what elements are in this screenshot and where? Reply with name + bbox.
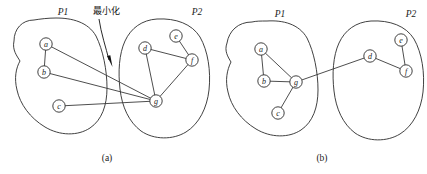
panel-b-node-d[interactable]: d	[364, 50, 376, 62]
panel-b-partition-P1-label: P1	[274, 9, 286, 19]
panel-b-edges	[261, 40, 406, 113]
panel-b-node-a[interactable]: a	[255, 43, 267, 55]
panel-a-node-a[interactable]: a	[40, 38, 52, 50]
node-label: c	[276, 109, 280, 118]
panel-a-partition-P1-label: P1	[57, 7, 69, 17]
annotation-arrow-line	[99, 19, 109, 60]
panel-b-caption: (b)	[316, 153, 327, 164]
partition-figure: P1 P2 a b c d	[0, 0, 427, 174]
annotation-arrow-head-icon	[107, 55, 113, 67]
node-label: g	[294, 78, 298, 87]
node-label: a	[259, 45, 263, 54]
panel-b-node-g[interactable]: g	[290, 76, 302, 88]
panel-b-node-c[interactable]: c	[272, 107, 284, 119]
panel-a-node-d[interactable]: d	[139, 42, 151, 54]
panel-b: P1 P2 a b c g d	[226, 9, 424, 164]
node-label: a	[44, 40, 48, 49]
node-label: b	[262, 77, 266, 86]
panel-a-node-g[interactable]: g	[150, 95, 162, 107]
node-label: g	[154, 97, 158, 106]
panel-a-partition-P2-outline	[119, 19, 210, 138]
node-label: e	[399, 36, 403, 45]
panel-b-node-f[interactable]: f	[400, 65, 412, 77]
node-label: c	[57, 102, 61, 111]
panel-a-node-e[interactable]: e	[170, 30, 182, 42]
panel-b-node-b[interactable]: b	[258, 75, 270, 87]
panel-a-annotation: 最小化	[93, 5, 120, 67]
panel-a-edge-a-g	[46, 44, 156, 101]
panel-b-node-e[interactable]: e	[395, 34, 407, 46]
panel-a-edge-d-g	[145, 48, 156, 101]
panel-b-partition-P1-outline	[226, 21, 318, 136]
panel-a-partition-P2-label: P2	[191, 7, 203, 17]
panel-a-edge-b-g	[44, 72, 156, 101]
panel-a: P1 P2 a b c d	[14, 5, 210, 164]
panel-a-edge-c-g	[59, 101, 156, 106]
minimize-annotation-label: 最小化	[93, 5, 120, 16]
panel-a-edges	[44, 36, 192, 106]
panel-a-edge-f-g	[156, 60, 192, 101]
panel-a-node-b[interactable]: b	[38, 66, 50, 78]
node-label: e	[174, 32, 178, 41]
node-label: b	[42, 68, 46, 77]
panel-b-partition-P2-label: P2	[405, 9, 417, 19]
panel-a-caption: (a)	[102, 153, 113, 164]
panel-b-partition-P2-outline	[333, 21, 424, 140]
panel-a-node-f[interactable]: f	[186, 54, 198, 66]
panel-a-node-c[interactable]: c	[53, 100, 65, 112]
